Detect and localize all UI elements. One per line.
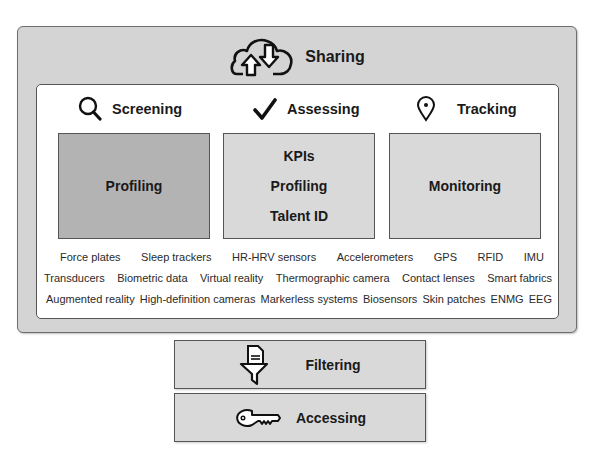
process-panel: Screening Assessing Tracking Profiling — [36, 84, 559, 319]
filtering-label: Filtering — [305, 357, 360, 373]
technology-item: Augmented reality — [46, 293, 135, 305]
accessing-box: Accessing — [174, 393, 426, 442]
technology-item: IMU — [524, 251, 544, 263]
technology-item: Biosensors — [363, 293, 417, 305]
accessing-label: Accessing — [296, 410, 366, 426]
technology-item: Thermographic camera — [276, 272, 390, 284]
search-icon — [78, 96, 102, 122]
category-tracking: Tracking — [415, 95, 517, 123]
technology-item: Contact lenses — [402, 272, 475, 284]
box-item: Monitoring — [429, 171, 501, 201]
sharing-header: Sharing — [18, 35, 576, 79]
document-funnel-icon — [239, 344, 269, 386]
box-item: Profiling — [271, 171, 328, 201]
technology-item: ENMG — [491, 293, 524, 305]
technology-item: Biometric data — [117, 272, 187, 284]
checkmark-icon — [253, 97, 277, 121]
technology-item: Virtual reality — [200, 272, 263, 284]
box-item: KPIs — [283, 141, 314, 171]
technology-item: Accelerometers — [337, 251, 413, 263]
technology-row-3: Augmented reality High-definition camera… — [37, 293, 558, 305]
technology-item: Sleep trackers — [141, 251, 211, 263]
technology-item: Markerless systems — [261, 293, 358, 305]
sharing-panel: Sharing Screening Assessing — [17, 26, 577, 333]
technology-item: Transducers — [44, 272, 105, 284]
category-label: Assessing — [287, 101, 360, 117]
technology-item: High-definition cameras — [140, 293, 256, 305]
technology-item: Force plates — [60, 251, 121, 263]
category-label: Tracking — [457, 101, 517, 117]
box-item: Profiling — [106, 171, 163, 201]
technology-item: RFID — [478, 251, 504, 263]
technology-item: Skin patches — [422, 293, 485, 305]
assessing-box: KPIs Profiling Talent ID — [223, 133, 375, 239]
technology-row-1: Force plates Sleep trackers HR-HRV senso… — [37, 251, 558, 263]
tracking-box: Monitoring — [389, 133, 541, 239]
cloud-sync-icon — [229, 37, 295, 77]
sharing-label: Sharing — [305, 48, 365, 66]
technology-item: Smart fabrics — [487, 272, 552, 284]
screening-box: Profiling — [58, 133, 210, 239]
technology-row-2: Transducers Biometric data Virtual reali… — [37, 272, 558, 284]
technology-item: HR-HRV sensors — [232, 251, 316, 263]
box-item: Talent ID — [270, 201, 328, 231]
category-label: Screening — [112, 101, 182, 117]
technology-item: GPS — [434, 251, 457, 263]
filtering-box: Filtering — [174, 340, 426, 389]
category-screening: Screening — [78, 95, 182, 123]
key-icon — [234, 406, 282, 430]
technology-item: EEG — [529, 293, 552, 305]
category-assessing: Assessing — [253, 95, 360, 123]
location-pin-icon — [415, 96, 437, 122]
